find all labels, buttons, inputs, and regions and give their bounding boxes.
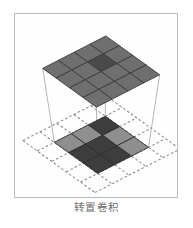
projection-line <box>43 68 55 142</box>
figure-caption: 转置卷积 <box>0 201 193 214</box>
figure-frame <box>14 13 178 198</box>
transposed-convolution-diagram <box>15 14 177 197</box>
cutoff-text: ▔ ▔▔ ▔ ▔▔▔ ▔▔ ▔ ▔▔ ▔▔▔ ▔ ▔▔ ▔▔ <box>2 0 193 3</box>
figure-page: ▔ ▔▔ ▔ ▔▔▔ ▔▔ ▔ ▔▔ ▔▔▔ ▔ ▔▔ ▔▔ 转置卷积 <box>0 0 193 228</box>
input-feature-map <box>54 116 148 173</box>
cutoff-text-strip: ▔ ▔▔ ▔ ▔▔▔ ▔▔ ▔ ▔▔ ▔▔▔ ▔ ▔▔ ▔▔ <box>0 0 193 7</box>
output-feature-map <box>43 36 160 107</box>
projection-line <box>149 75 160 148</box>
diagram-stage <box>15 14 177 197</box>
